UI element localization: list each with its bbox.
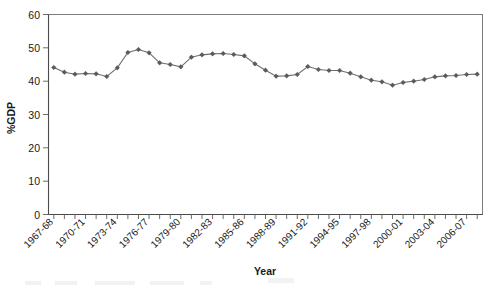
data-point	[454, 73, 459, 78]
y-tick-label-30: 30	[28, 109, 40, 121]
x-tick-label: 2006-07	[434, 216, 468, 250]
data-point	[348, 71, 353, 76]
data-point	[73, 72, 78, 77]
chart-canvas: 60 50 40 30 20 10 0 %GDP 1967-681970-711…	[0, 0, 497, 288]
data-point	[411, 79, 416, 84]
x-tick-label: 2000-01	[371, 216, 405, 250]
y-tick-label-60: 60	[28, 9, 40, 21]
chart-figure: 60 50 40 30 20 10 0 %GDP 1967-681970-711…	[0, 0, 497, 288]
data-point	[443, 74, 448, 79]
y-axis-title: %GDP	[5, 102, 17, 134]
data-point	[327, 68, 332, 73]
data-point	[62, 70, 67, 75]
x-tick-label: 1997-98	[339, 216, 373, 250]
x-tick-label: 1973-74	[85, 216, 119, 250]
x-axis-title: Year	[254, 265, 276, 277]
x-tick-marks	[54, 215, 477, 220]
y-tick-label-10: 10	[28, 175, 40, 187]
data-point	[200, 53, 205, 58]
x-tick-label: 2003-04	[403, 216, 437, 250]
y-tick-label-50: 50	[28, 42, 40, 54]
data-point	[221, 51, 226, 56]
x-tick-label: 1988-89	[244, 216, 278, 250]
y-tick-marks	[43, 15, 49, 215]
data-point	[168, 62, 173, 67]
data-point	[380, 80, 385, 85]
data-point	[316, 67, 321, 72]
y-tick-labels: 60 50 40 30 20 10 0	[28, 9, 40, 221]
x-tick-label: 1967-68	[21, 216, 55, 250]
x-tick-label: 1970-71	[53, 216, 87, 250]
data-point	[475, 72, 480, 77]
plot-frame	[49, 15, 483, 215]
scan-artifacts	[25, 278, 294, 285]
data-point	[433, 75, 438, 80]
y-tick-label-0: 0	[34, 209, 40, 221]
data-point	[422, 77, 427, 82]
data-point	[94, 72, 99, 77]
x-tick-label: 1982-83	[180, 216, 214, 250]
y-tick-label-40: 40	[28, 75, 40, 87]
data-point	[337, 68, 342, 73]
data-point	[464, 72, 469, 77]
data-point	[401, 80, 406, 85]
x-tick-label: 1976-77	[117, 216, 151, 250]
x-tick-label: 1979-80	[149, 216, 183, 250]
x-tick-labels: 1967-681970-711973-741976-771979-801982-…	[21, 216, 468, 250]
data-point	[263, 68, 268, 73]
data-point	[210, 52, 215, 57]
x-tick-label: 1994-95	[307, 216, 341, 250]
data-point	[231, 52, 236, 57]
data-point	[136, 47, 141, 52]
data-point	[390, 83, 395, 88]
series-markers	[51, 47, 479, 87]
data-point	[274, 74, 279, 79]
data-point	[369, 78, 374, 83]
data-point	[358, 75, 363, 80]
y-tick-label-20: 20	[28, 142, 40, 154]
x-tick-label: 1985-86	[212, 216, 246, 250]
x-tick-label: 1991-92	[276, 216, 310, 250]
data-point	[284, 74, 289, 79]
data-point	[51, 65, 56, 70]
data-point	[83, 71, 88, 76]
